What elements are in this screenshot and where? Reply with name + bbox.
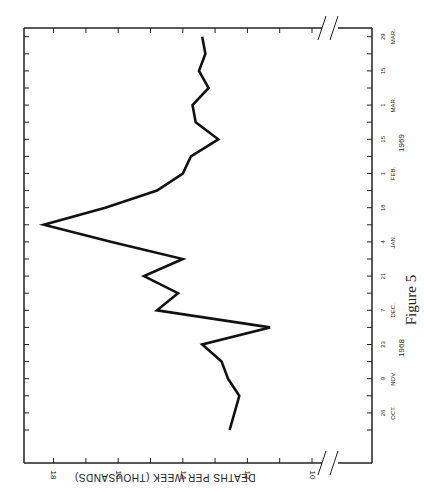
time-tick-label: 1 — [380, 171, 386, 175]
month-label: NOV. — [390, 371, 396, 385]
time-tick-label: 21 — [380, 272, 386, 279]
time-tick-label: 7 — [380, 308, 386, 312]
value-tick-label: 10 — [308, 471, 317, 480]
figure-caption: Figure 5 — [403, 275, 419, 325]
month-label: DEC. — [390, 303, 396, 318]
time-tick-label: 26 — [380, 409, 386, 416]
value-tick-label: 18 — [49, 471, 58, 480]
time-tick-label: 4 — [380, 240, 386, 244]
month-label: JAN. — [390, 235, 396, 248]
month-label: MAR. — [390, 29, 396, 44]
chart: 1012141618DEATHS PER WEEK (THOUSANDS)26O… — [0, 0, 424, 492]
time-tick-label: 15 — [380, 135, 386, 142]
time-tick-label: 29 — [380, 33, 386, 40]
month-label: OCT. — [390, 406, 396, 420]
y-axis-label: DEATHS PER WEEK (THOUSANDS) — [74, 472, 255, 483]
deaths-per-week-line — [44, 37, 270, 430]
time-tick-label: 23 — [380, 341, 386, 348]
time-tick-label: 1 — [380, 103, 386, 107]
time-tick-label: 15 — [380, 67, 386, 74]
year-label-1969: 1969 — [397, 134, 406, 152]
year-label-1968: 1968 — [397, 339, 406, 357]
time-tick-label: 9 — [380, 376, 386, 380]
month-label: FEB. — [390, 167, 396, 181]
axis-break-mark — [330, 451, 338, 475]
axis-break-mark — [330, 16, 338, 40]
month-label: MAR. — [390, 97, 396, 112]
time-tick-label: 18 — [380, 204, 386, 211]
